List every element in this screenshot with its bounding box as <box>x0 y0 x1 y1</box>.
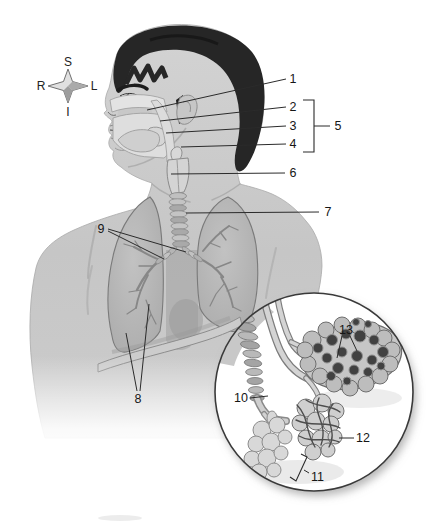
callout-label-12: 12 <box>356 431 370 445</box>
compass-superior-label: S <box>64 55 72 69</box>
compass-right-label: R <box>37 79 46 93</box>
callout-label-2: 2 <box>290 100 297 114</box>
callout-label-10: 10 <box>234 391 248 405</box>
callout-label-5: 5 <box>335 119 342 133</box>
callout-label-7: 7 <box>325 205 332 219</box>
anatomy-figure-page: S R L I <box>0 0 434 532</box>
callout-label-1: 1 <box>290 72 297 86</box>
callout-label-9: 9 <box>98 222 105 236</box>
callout-label-3: 3 <box>290 119 297 133</box>
compass-left-label: L <box>91 79 98 93</box>
cricoid-ring <box>170 193 187 200</box>
orientation-compass-icon: S R L I <box>37 55 98 119</box>
respiratory-system-diagram: S R L I <box>0 0 434 532</box>
callout-bracket-5 <box>303 100 314 152</box>
callout-label-11: 11 <box>311 470 324 484</box>
compass-inferior-label: I <box>66 105 69 119</box>
bottom-smudge <box>98 515 142 521</box>
callout-label-4: 4 <box>290 137 297 151</box>
callout-label-6: 6 <box>290 166 297 180</box>
callout-label-13: 13 <box>339 323 353 337</box>
callout-label-8: 8 <box>135 392 142 406</box>
